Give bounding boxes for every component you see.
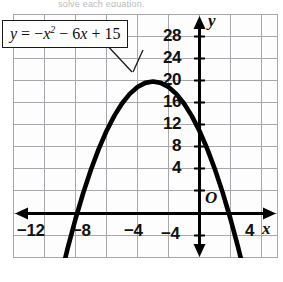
eq-minus-six: − 6: [59, 25, 80, 42]
axis-arrowheads: [15, 16, 276, 257]
x-tick-label-neg8: −8: [72, 221, 90, 241]
x-axis-label: x: [262, 219, 271, 239]
x-axis-right-arrow: [263, 208, 276, 220]
x-tick-label-neg4: −4: [124, 221, 142, 241]
y-axis-label: y: [208, 11, 216, 31]
eq-negative: −: [34, 25, 43, 42]
eq-exponent: 2: [50, 24, 55, 35]
y-axis-down-arrow: [194, 244, 206, 257]
equation-callout-box: y = −x2 − 6x + 15: [2, 20, 128, 48]
x-tick-label-4: 4: [245, 221, 254, 241]
y-tick-label-12: 12: [163, 114, 181, 134]
y-tick-label-8: 8: [172, 136, 181, 156]
y-tick-label-20: 20: [163, 70, 181, 90]
graph-svg: [13, 14, 278, 258]
y-tick-label-24: 24: [163, 48, 181, 68]
eq-equals: =: [21, 25, 30, 42]
y-tick-label-28: 28: [163, 26, 181, 46]
figure-container: solve each equation.: [0, 0, 283, 282]
eq-y: y: [10, 25, 17, 42]
eq-x-linear: x: [80, 25, 87, 42]
y-tick-label-4: 4: [172, 158, 181, 178]
cropped-header-text: solve each equation.: [58, 0, 178, 7]
y-axis-up-arrow: [194, 16, 206, 29]
x-tick-label-neg12: −12: [17, 221, 44, 241]
x-axis-left-arrow: [15, 208, 28, 220]
coordinate-plane: [13, 14, 278, 258]
y-tick-label-neg4: −4: [161, 224, 179, 244]
eq-plus-fifteen: + 15: [91, 25, 120, 42]
origin-label: O: [205, 188, 217, 208]
grid-lines: [13, 14, 278, 258]
y-tick-label-16: 16: [163, 92, 181, 112]
axis-lines: [21, 23, 270, 251]
